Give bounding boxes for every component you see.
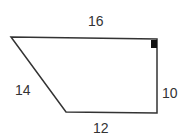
label-bottom: 12 (93, 121, 109, 135)
right-angle-marker (151, 40, 157, 48)
trapezoid-diagram: 16 14 10 12 (0, 0, 185, 137)
label-left: 14 (15, 83, 31, 97)
label-top: 16 (88, 14, 104, 28)
label-right: 10 (162, 86, 178, 100)
